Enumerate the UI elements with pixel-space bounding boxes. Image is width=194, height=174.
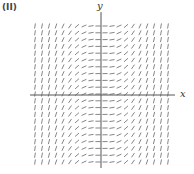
slope-field-plot: [0, 0, 194, 174]
